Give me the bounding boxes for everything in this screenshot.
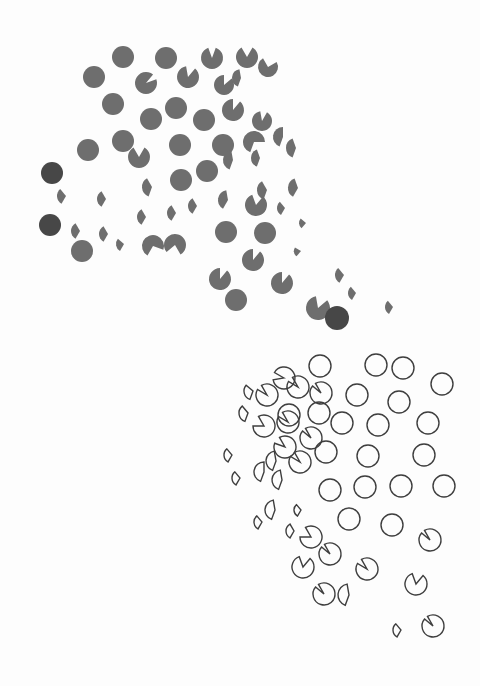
outlined-circle-shape [357,445,379,467]
filled-disc-shape [41,162,63,184]
outlined-circle-shape [239,406,248,421]
filled-disc-shape [102,93,124,115]
filled-disc-shape [112,46,134,68]
outlined-circle-shape [417,412,439,434]
filled-disc-shape [188,198,197,214]
filled-disc-shape [71,223,80,239]
filled-disc-shape [167,205,176,221]
filled-disc-shape [273,127,283,146]
outlined-circle-shape [254,516,262,529]
filled-disc-shape [288,179,298,197]
filled-disc-shape [201,48,223,69]
filled-disc-shape [116,239,124,251]
outlined-circle-shape [253,415,275,437]
outlined-circle-shape [405,574,427,595]
outlined-circle-shape [292,557,314,578]
outlined-circle-shape [413,444,435,466]
filled-disc-shape [155,47,177,69]
filled-disc-shape [142,178,152,196]
filled-disc-shape [325,306,349,330]
filled-disc-shape [254,222,276,244]
filled-disc-shape [193,109,215,131]
filled-disc-shape [236,47,258,68]
outlined-circle-shape [266,451,276,470]
outlined-circle-shape [272,470,282,489]
outlined-circle-shape [388,391,410,413]
outlined-circle-shape [254,462,264,481]
outlined-circle-shape [365,354,387,376]
filled-disc-shape [348,287,356,300]
filled-disc-shape [77,139,99,161]
filled-disc-shape [222,99,244,121]
outlined-circle-shape [294,505,301,516]
outlined-circle-shape [308,402,330,424]
filled-disc-shape [215,221,237,243]
outlined-circle-shape [431,373,453,395]
outlined-circle-shape [319,479,341,501]
outlined-circle-shape [232,472,240,485]
outlined-circle-shape [309,355,331,377]
outlined-circle-shape [356,558,378,580]
filled-disc-shape [243,131,265,152]
filled-disc-shape [170,169,192,191]
outlined-circle-shape [319,543,341,565]
outlined-circle-shape [315,441,337,463]
filled-disc-shape [385,301,393,314]
outlined-circle-shape [274,436,296,458]
filled-disc-shape [165,97,187,119]
outlined-circle-shape [300,526,322,548]
artwork-canvas [0,0,480,686]
filled-discs-group [39,46,393,330]
filled-disc-shape [135,72,157,94]
outlined-circle-shape [346,384,368,406]
outlined-circle-shape [300,427,322,449]
outlined-circle-shape [338,584,349,605]
outlined-circle-shape [419,529,441,551]
filled-disc-shape [242,249,264,271]
filled-disc-shape [335,268,344,283]
outlined-circle-shape [433,475,455,497]
filled-disc-shape [177,66,199,88]
filled-disc-shape [286,139,296,158]
filled-disc-shape [299,219,306,229]
outlined-circle-shape [256,384,278,406]
outlined-circle-shape [354,476,376,498]
filled-disc-shape [142,235,164,256]
filled-disc-shape [71,240,93,262]
outlined-circle-shape [381,514,403,536]
filled-disc-shape [196,160,218,182]
filled-disc-shape [169,134,191,156]
outlined-circle-shape [313,583,335,605]
outlined-circle-shape [273,367,295,389]
filled-disc-shape [39,214,61,236]
filled-disc-shape [257,181,267,199]
filled-disc-shape [277,202,285,215]
outlined-circle-shape [224,449,232,462]
filled-disc-shape [218,190,228,209]
outlined-circle-shape [422,615,444,637]
filled-disc-shape [97,191,106,207]
outlined-circle-shape [338,508,360,530]
filled-disc-shape [99,226,108,242]
filled-disc-shape [245,195,267,216]
outlined-circle-shape [392,357,414,379]
filled-disc-shape [112,130,134,152]
outlined-circles-group [224,354,455,637]
outlined-circle-shape [367,414,389,436]
filled-disc-shape [128,147,150,168]
filled-disc-shape [209,268,231,290]
filled-disc-shape [271,272,293,294]
filled-disc-shape [137,209,146,225]
filled-disc-shape [57,189,66,204]
outlined-circle-shape [390,475,412,497]
outlined-circle-shape [244,385,253,399]
outlined-circle-shape [310,382,332,404]
filled-disc-shape [164,234,186,255]
filled-disc-shape [251,150,260,167]
filled-disc-shape [225,289,247,311]
filled-disc-shape [252,111,272,131]
outlined-circle-shape [331,412,353,434]
outlined-circle-shape [286,524,294,538]
outlined-circle-shape [393,624,401,637]
filled-disc-shape [140,108,162,130]
